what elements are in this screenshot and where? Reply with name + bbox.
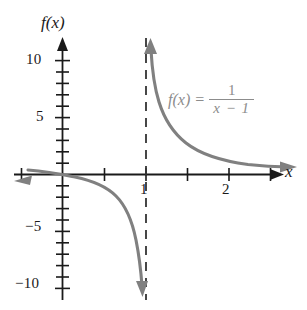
curve-left-branch	[28, 170, 142, 286]
x-tick-label-2: 2	[222, 182, 230, 197]
y-axis-label: f(x)	[41, 14, 65, 31]
formula-fraction: 1 x − 1	[209, 83, 254, 116]
function-formula-annotation: f(x) = 1 x − 1	[168, 83, 254, 116]
formula-numerator: 1	[222, 83, 242, 99]
y-tick-label-5: 5	[36, 109, 44, 124]
x-axis-label: x	[285, 163, 293, 180]
y-tick-label-minus-10: −10	[15, 276, 39, 291]
y-axis-arrowhead	[57, 37, 68, 51]
formula-function-name: f(x)	[168, 92, 190, 108]
y-tick-label-minus-5: −5	[25, 219, 42, 234]
curve-left-branch-arrowhead-left	[14, 176, 32, 186]
y-tick-label-10: 10	[26, 52, 42, 67]
formula-denominator: x − 1	[209, 100, 254, 116]
plot-canvas	[0, 0, 307, 310]
function-graph-figure: f(x) x 10 5 −5 −10 1 2 f(x) = 1 x − 1	[0, 0, 307, 310]
formula-equals-sign: =	[194, 92, 205, 108]
x-tick-label-1: 1	[140, 182, 148, 197]
